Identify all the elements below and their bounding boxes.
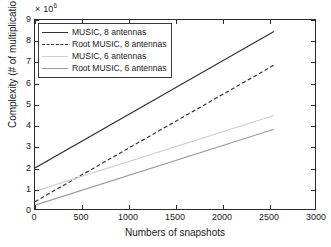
x-tick-mark xyxy=(129,205,130,209)
legend-item[interactable]: MUSIC, 6 antennas xyxy=(42,50,167,62)
legend-line-sample xyxy=(42,63,68,73)
x-tick-label: 3000 xyxy=(306,212,326,222)
legend-item[interactable]: MUSIC, 8 antennas xyxy=(42,26,167,38)
y-tick-mark xyxy=(311,105,315,106)
series-line xyxy=(35,116,274,192)
y-tick-mark xyxy=(311,20,315,21)
series-line xyxy=(35,65,274,202)
x-tick-label: 500 xyxy=(73,212,88,222)
y-tick-label: 2 xyxy=(5,163,31,173)
y-axis-exponent-base: × 10 xyxy=(35,4,54,14)
legend-item-label: MUSIC, 8 antennas xyxy=(72,27,146,37)
legend-item[interactable]: Root MUSIC, 8 antennas xyxy=(42,38,167,50)
y-tick-mark xyxy=(311,169,315,170)
x-tick-mark xyxy=(82,205,83,209)
x-tick-mark xyxy=(270,205,271,209)
legend-item-label: Root MUSIC, 6 antennas xyxy=(72,63,167,73)
x-tick-label: 0 xyxy=(31,212,36,222)
y-tick-mark xyxy=(311,190,315,191)
x-axis-ticks: 050010001500200025003000 xyxy=(34,212,316,226)
legend: MUSIC, 8 antennasRoot MUSIC, 8 antennasM… xyxy=(38,23,172,78)
y-axis-exponent: × 106 xyxy=(35,2,57,14)
legend-item-label: MUSIC, 6 antennas xyxy=(72,51,146,61)
y-tick-mark xyxy=(311,84,315,85)
series-line xyxy=(35,129,274,205)
y-tick-mark xyxy=(35,147,39,148)
y-tick-mark xyxy=(35,169,39,170)
y-tick-mark xyxy=(311,41,315,42)
x-tick-mark xyxy=(223,205,224,209)
y-tick-mark xyxy=(35,84,39,85)
x-tick-mark xyxy=(176,205,177,209)
legend-item-label: Root MUSIC, 8 antennas xyxy=(72,39,167,49)
y-tick-mark xyxy=(35,190,39,191)
x-tick-mark xyxy=(270,20,271,24)
legend-line-sample xyxy=(42,39,68,49)
y-axis-label: Complexity (# of multiplications) xyxy=(7,0,18,148)
x-tick-mark xyxy=(223,20,224,24)
y-tick-mark xyxy=(311,126,315,127)
y-tick-mark xyxy=(311,147,315,148)
x-axis-label: Numbers of snapshots xyxy=(34,227,316,238)
legend-line-sample xyxy=(42,27,68,37)
x-tick-label: 2000 xyxy=(212,212,232,222)
x-tick-label: 1000 xyxy=(118,212,138,222)
x-tick-label: 2500 xyxy=(259,212,279,222)
y-tick-label: 1 xyxy=(5,184,31,194)
figure: × 106 0123456789 05001000150020002500300… xyxy=(0,0,331,247)
x-tick-mark xyxy=(35,20,36,24)
legend-item[interactable]: Root MUSIC, 6 antennas xyxy=(42,62,167,74)
y-tick-mark xyxy=(35,126,39,127)
x-tick-mark xyxy=(176,20,177,24)
y-tick-mark xyxy=(311,62,315,63)
y-axis-exponent-power: 6 xyxy=(54,2,58,9)
y-tick-mark xyxy=(35,105,39,106)
legend-line-sample xyxy=(42,51,68,61)
x-tick-label: 1500 xyxy=(165,212,185,222)
y-tick-label: 0 xyxy=(5,205,31,215)
x-tick-mark xyxy=(35,205,36,209)
